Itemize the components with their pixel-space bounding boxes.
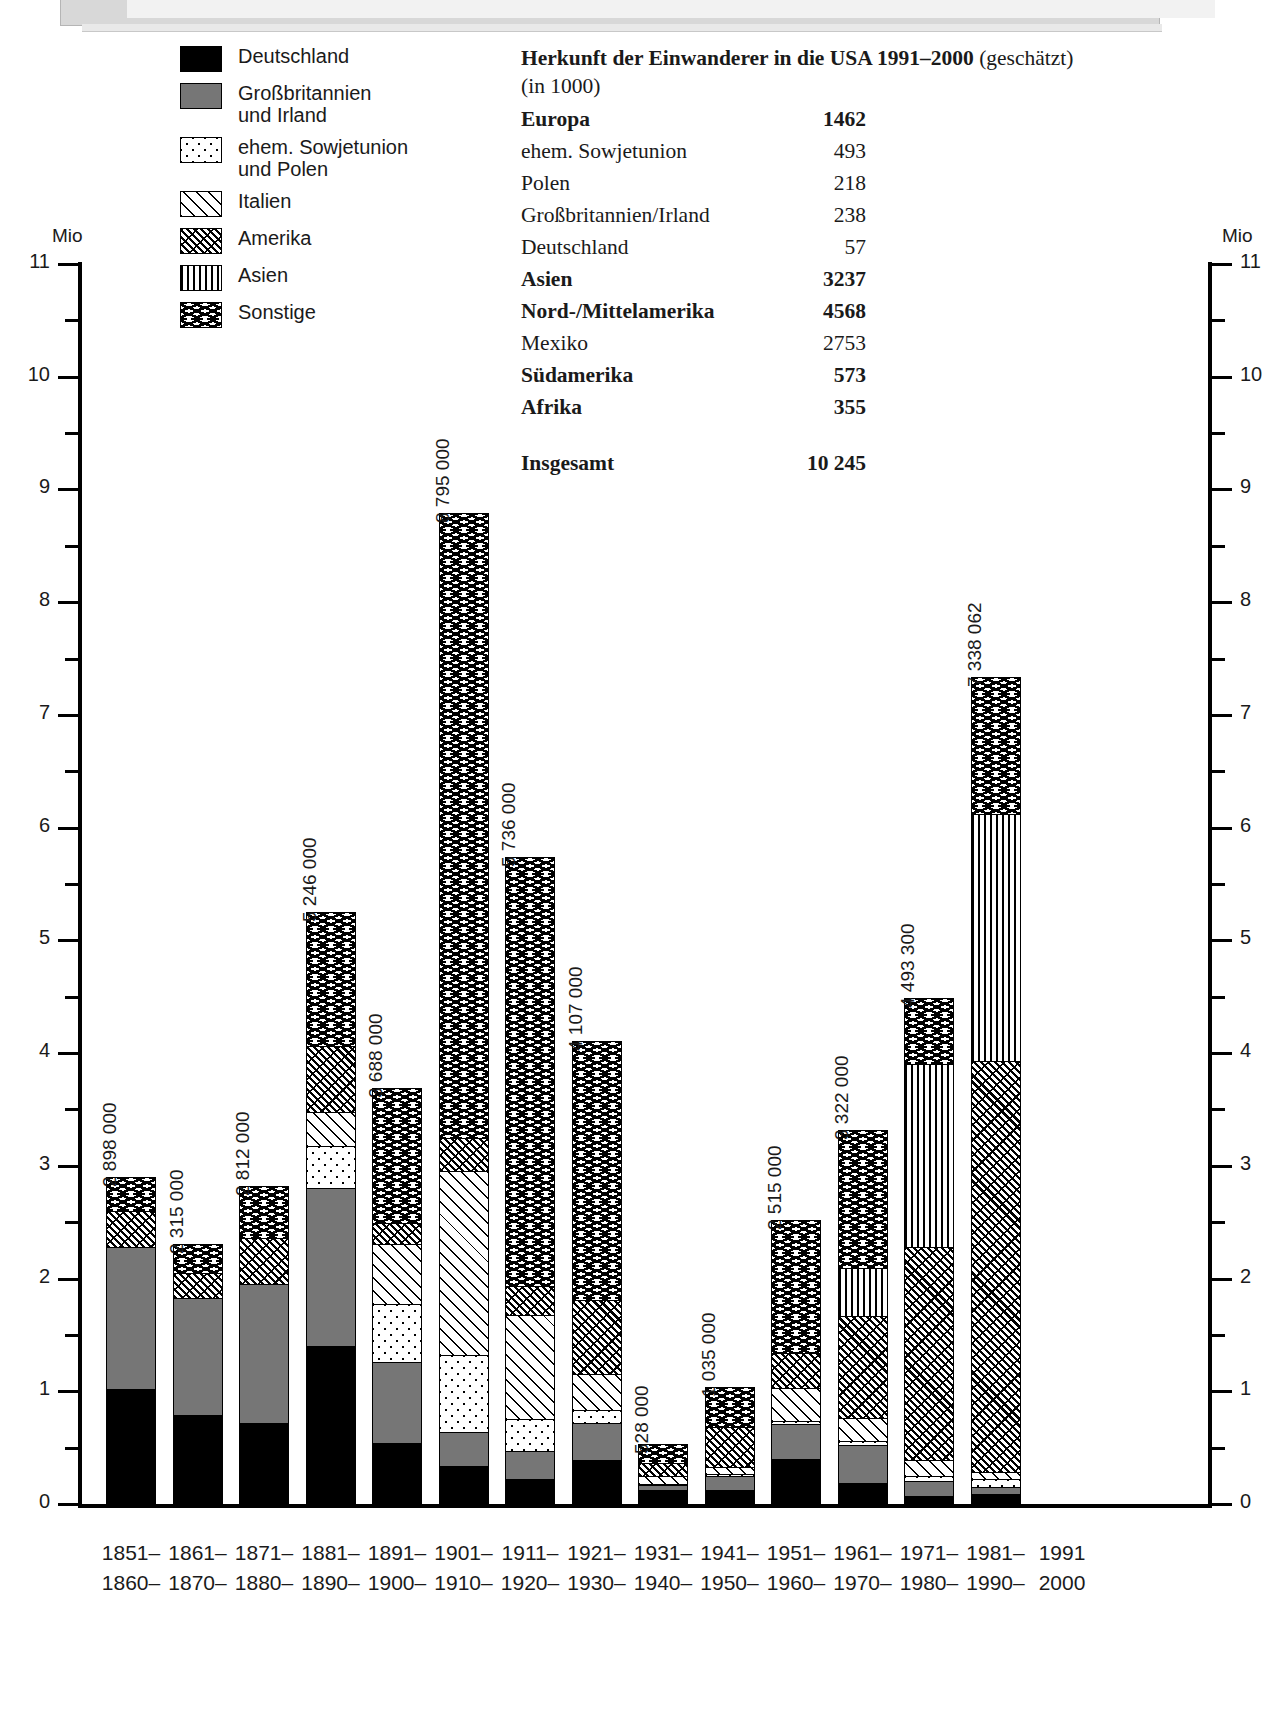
bar-segment-grey [173, 1298, 223, 1415]
y-tick-left [58, 488, 78, 491]
bar-segment-dots [904, 1476, 954, 1482]
y-tick-label-right: 2 [1240, 1265, 1280, 1288]
bar-segment-solid-black [372, 1443, 422, 1504]
bar-segment-grey [572, 1423, 622, 1460]
y-tick-left [65, 545, 78, 548]
bar-segment-dots [439, 1355, 489, 1432]
bar-segment-diagonal [572, 1374, 622, 1410]
y-tick-label-right: 11 [1240, 250, 1280, 273]
bar-group [106, 264, 156, 1504]
y-tick-right [1212, 1334, 1225, 1337]
bar-value-label: 1 035 000 [698, 1312, 720, 1397]
bar-segment-wave [306, 912, 356, 1046]
stacked-bar-chart: 0011223344556677889910101111MioMio2 898 … [0, 0, 1284, 1719]
y-tick-label-left: 7 [10, 701, 50, 724]
y-axis-left [78, 262, 82, 1508]
bar-segment-diagonal [505, 1315, 555, 1420]
bar-value-label: 8 795 000 [432, 439, 454, 524]
bar-segment-solid-black [838, 1483, 888, 1504]
y-tick-label-left: 0 [10, 1490, 50, 1513]
y-tick-label-left: 11 [10, 250, 50, 273]
bar-value-label: 3 688 000 [365, 1014, 387, 1099]
y-tick-label-right: 0 [1240, 1490, 1280, 1513]
bar-segment-grey [239, 1284, 289, 1423]
bar-segment-diagonal [638, 1476, 688, 1484]
y-tick-label-left: 3 [10, 1152, 50, 1175]
bar-segment-dots [705, 1474, 755, 1476]
y-tick-right [1212, 1165, 1232, 1168]
y-tick-left [65, 1447, 78, 1450]
bar-segment-diagonal-dot [838, 1316, 888, 1419]
y-tick-right [1212, 714, 1232, 717]
y-tick-left [58, 1165, 78, 1168]
bar-segment-grey [838, 1445, 888, 1482]
y-tick-right [1212, 319, 1225, 322]
bar-segment-solid-black [173, 1415, 223, 1504]
x-axis-baseline [78, 1504, 1212, 1508]
bar-segment-diagonal [971, 1472, 1021, 1479]
bar-segment-wave [505, 857, 555, 1286]
bar-segment-grey [306, 1188, 356, 1346]
bar-segment-solid-black [971, 1494, 1021, 1504]
y-tick-label-left: 6 [10, 814, 50, 837]
y-tick-right [1212, 1221, 1225, 1224]
y-tick-right [1212, 1052, 1232, 1055]
bar-segment-dots [372, 1304, 422, 1361]
bar-segment-grey [971, 1487, 1021, 1494]
bar-segment-vertical [971, 814, 1021, 1061]
bar-segment-dots [505, 1419, 555, 1451]
y-tick-label-left: 5 [10, 926, 50, 949]
bar-segment-solid-black [705, 1490, 755, 1504]
y-axis-unit-right: Mio [1222, 225, 1253, 247]
bar-segment-solid-black [306, 1346, 356, 1504]
bar-segment-diagonal-dot [971, 1061, 1021, 1472]
bar-segment-dots [771, 1421, 821, 1424]
bar-segment-solid-black [572, 1460, 622, 1504]
bar-group [838, 264, 888, 1504]
bar-segment-diagonal-dot [306, 1046, 356, 1111]
y-tick-label-right: 9 [1240, 475, 1280, 498]
bar-segment-diagonal [838, 1418, 888, 1441]
y-tick-left [58, 714, 78, 717]
y-tick-right [1212, 939, 1232, 942]
bar-segment-solid-black [638, 1490, 688, 1504]
bar-segment-diagonal-dot [904, 1247, 954, 1460]
bar-segment-grey [771, 1424, 821, 1459]
bar-segment-solid-black [106, 1389, 156, 1504]
bar-segment-diagonal-dot [239, 1238, 289, 1284]
y-tick-right [1212, 376, 1232, 379]
bar-segment-grey [705, 1476, 755, 1491]
bar-value-label: 4 107 000 [565, 966, 587, 1051]
bar-segment-diagonal-dot [638, 1463, 688, 1475]
bar-segment-grey [505, 1451, 555, 1479]
bar-group [239, 264, 289, 1504]
bar-segment-solid-black [771, 1459, 821, 1504]
bar-segment-diagonal-dot [173, 1273, 223, 1298]
bar-segment-grey [439, 1432, 489, 1466]
y-tick-label-left: 2 [10, 1265, 50, 1288]
y-tick-label-left: 4 [10, 1039, 50, 1062]
bar-segment-dots [638, 1484, 688, 1485]
bar-segment-dots [971, 1479, 1021, 1487]
y-tick-right [1212, 827, 1232, 830]
bar-segment-dots [572, 1410, 622, 1422]
bar-segment-dots [838, 1441, 888, 1446]
y-tick-left [65, 432, 78, 435]
y-tick-label-left: 8 [10, 588, 50, 611]
bar-segment-grey [106, 1247, 156, 1389]
bar-value-label: 7 338 062 [964, 602, 986, 687]
y-tick-label-right: 1 [1240, 1377, 1280, 1400]
x-axis-label: 1991 2000 [1016, 1538, 1108, 1598]
y-tick-left [65, 1334, 78, 1337]
y-tick-left [65, 996, 78, 999]
y-tick-left [65, 319, 78, 322]
bar-segment-wave [971, 677, 1021, 815]
y-tick-left [58, 1390, 78, 1393]
bar-segment-wave [372, 1088, 422, 1223]
y-tick-label-right: 6 [1240, 814, 1280, 837]
y-tick-right [1212, 1390, 1232, 1393]
bar-segment-diagonal [771, 1388, 821, 1421]
y-tick-left [58, 1052, 78, 1055]
bar-segment-diagonal-dot [572, 1300, 622, 1374]
bar-segment-diagonal-dot [705, 1427, 755, 1466]
